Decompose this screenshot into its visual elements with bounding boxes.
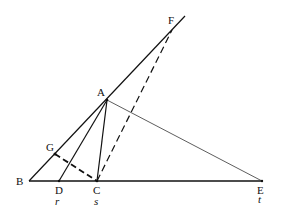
segment-a-d [59,100,107,181]
segment-c-f [97,30,172,181]
label-g: G [46,141,54,153]
segment-a-c [97,100,107,181]
label-a: A [97,86,105,98]
segment-b-f [29,16,185,181]
segment-a-e [107,100,262,181]
point-c-marker [96,180,99,183]
point-a-marker [106,99,109,102]
label-b: B [16,175,23,187]
label-f: F [168,14,174,26]
point-d-marker [58,180,60,182]
point-e-marker [261,180,263,182]
geometry-diagram: A B C D E F G r s t [0,0,282,219]
label-s: s [94,195,98,207]
label-r: r [55,195,60,207]
